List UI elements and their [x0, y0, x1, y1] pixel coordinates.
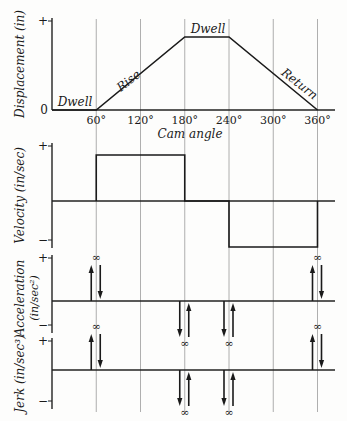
acceleration-impulse-360: ∞ [310, 251, 324, 301]
acceleration-arrow-down-head [221, 329, 226, 337]
acceleration-arrow-up-head [89, 265, 94, 273]
jerk-arrow-up-head [89, 334, 94, 342]
jerk-arrow-up-head [310, 334, 315, 342]
x-axis-title: Cam angle [157, 127, 222, 141]
acceleration-infinity-label: ∞ [180, 337, 189, 350]
displacement-ytick-label: 0 [40, 103, 48, 117]
acceleration-ylabel-unit: (in/sec²) [28, 275, 41, 321]
jerk-infinity-label: ∞ [180, 406, 189, 419]
acceleration-arrow-up-head [230, 303, 235, 311]
jerk-infinity-label: ∞ [224, 406, 233, 419]
acceleration-impulse-180: ∞ [177, 301, 191, 350]
jerk-arrow-up-head [230, 372, 235, 380]
jerk-panel: +−Jerk (in/sec³)∞∞∞∞ [13, 320, 335, 419]
acceleration-ylabel: Acceleration [13, 260, 27, 338]
jerk-arrow-down-head [221, 398, 226, 406]
acceleration-ytick-label: + [38, 251, 48, 265]
annotation-dwell-top: Dwell [190, 22, 226, 36]
jerk-infinity-label: ∞ [92, 320, 101, 333]
velocity-ytick-label: − [38, 233, 48, 247]
jerk-impulse-240: ∞ [221, 370, 235, 419]
acceleration-panel: +−Acceleration(in/sec²)∞∞∞∞ [13, 251, 335, 350]
cam-motion-diagram: 0+Displacement (in)60°120°180°240°300°36… [0, 0, 347, 421]
acceleration-impulse-240: ∞ [221, 301, 235, 350]
velocity-ytick-label: + [38, 139, 48, 153]
x-tick-label: 300° [260, 114, 287, 127]
jerk-arrow-down-head [177, 398, 182, 406]
annotation-dwell-start: Dwell [57, 95, 93, 109]
acceleration-arrow-up-head [310, 265, 315, 273]
jerk-impulse-60: ∞ [89, 320, 103, 370]
displacement-ylabel: Displacement (in) [13, 10, 27, 119]
x-tick-label: 180° [172, 114, 199, 127]
velocity-ylabel: Velocity (in/sec) [13, 147, 27, 244]
acceleration-infinity-label: ∞ [92, 251, 101, 264]
acceleration-arrow-down-head [319, 291, 324, 299]
velocity-panel: +−Velocity (in/sec) [13, 139, 335, 248]
jerk-arrow-down-head [319, 360, 324, 368]
jerk-infinity-label: ∞ [313, 320, 322, 333]
acceleration-arrow-down-head [177, 329, 182, 337]
jerk-arrow-up-head [186, 372, 191, 380]
jerk-ytick-label: + [38, 334, 48, 348]
annotation-rise: Rise [113, 67, 143, 95]
x-tick-label: 60° [87, 114, 107, 127]
x-tick-label: 120° [127, 114, 154, 127]
jerk-arrow-down-head [98, 360, 103, 368]
acceleration-arrow-down-head [98, 291, 103, 299]
x-tick-label: 240° [216, 114, 243, 127]
jerk-ytick-label: − [38, 394, 48, 408]
acceleration-arrow-up-head [186, 303, 191, 311]
displacement-panel: 0+Displacement (in)60°120°180°240°300°36… [13, 10, 335, 141]
displacement-ytick-label: + [38, 14, 48, 28]
annotation-return: Return [278, 65, 321, 103]
acceleration-infinity-label: ∞ [313, 251, 322, 264]
acceleration-infinity-label: ∞ [224, 337, 233, 350]
acceleration-impulse-60: ∞ [89, 251, 103, 301]
x-tick-label: 360° [304, 114, 331, 127]
jerk-impulse-360: ∞ [310, 320, 324, 370]
jerk-ylabel: Jerk (in/sec³) [13, 334, 27, 416]
jerk-impulse-180: ∞ [177, 370, 191, 419]
